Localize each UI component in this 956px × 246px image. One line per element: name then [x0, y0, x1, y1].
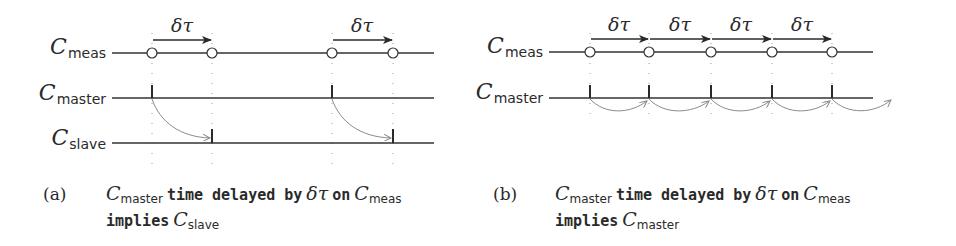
delta-tau-label: δτ: [730, 15, 752, 34]
subfigure-tag-a: (a): [43, 186, 66, 203]
clock-label-master: Cmaster: [476, 81, 543, 103]
meas-event-circle: [327, 48, 337, 58]
subfigure-tag-b: (b): [493, 186, 517, 203]
panel-a-diagram: [112, 33, 434, 168]
panel-a-timelines: [112, 53, 434, 143]
delta-tau-label: δτ: [669, 15, 691, 34]
panel-b-diagram: [549, 33, 891, 118]
panel-b-master-ticks: [590, 85, 832, 98]
meas-event-circle: [767, 47, 777, 57]
panel-a-implication-arrows: [152, 99, 391, 138]
meas-event-circle: [827, 47, 837, 57]
meas-event-circle: [585, 47, 595, 57]
meas-event-circle: [147, 48, 157, 58]
caption-a-line2: implies Cslave: [106, 206, 219, 235]
timing-diagram-figure: Cmeas Cmaster Cslave δτ δτ (a) Cmaster t…: [0, 0, 956, 246]
delta-tau-label: δτ: [171, 16, 193, 35]
meas-event-circle: [706, 47, 716, 57]
panel-b-guides: [590, 33, 832, 118]
panel-a-master-ticks: [152, 85, 332, 98]
caption-b-line1: Cmaster time delayed by δτ on Cmeas: [555, 180, 851, 209]
delta-tau-label: δτ: [351, 16, 373, 35]
clock-label-meas: Cmeas: [50, 36, 106, 58]
panel-b-implication-arrows: [590, 99, 891, 111]
meas-event-circle: [388, 48, 398, 58]
caption-a-line1: Cmaster time delayed by δτ on Cmeas: [106, 180, 402, 209]
delta-tau-label: δτ: [791, 15, 813, 34]
clock-label-slave: Cslave: [51, 127, 106, 149]
clock-label-master: Cmaster: [39, 82, 106, 104]
panel-a-slave-ticks: [212, 129, 393, 143]
meas-event-circle: [644, 47, 654, 57]
meas-event-circle: [207, 48, 217, 58]
clock-label-meas: Cmeas: [487, 35, 543, 57]
delta-tau-label: δτ: [608, 15, 630, 34]
caption-b-line2: implies Cmaster: [555, 206, 679, 235]
